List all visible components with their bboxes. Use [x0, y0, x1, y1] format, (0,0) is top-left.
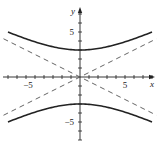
y-tick-label-neg5: −5: [64, 117, 74, 127]
y-tick-label-5: 5: [70, 27, 75, 37]
axes: [3, 7, 155, 140]
y-axis-label: y: [70, 6, 75, 16]
y-axis-arrow-icon: [78, 7, 82, 13]
x-tick-label-neg5: −5: [23, 80, 33, 90]
x-axis-label: x: [149, 79, 154, 89]
x-tick-label-5: 5: [123, 80, 128, 90]
hyperbola-chart: −5 5 5 −5 x y: [0, 0, 158, 145]
